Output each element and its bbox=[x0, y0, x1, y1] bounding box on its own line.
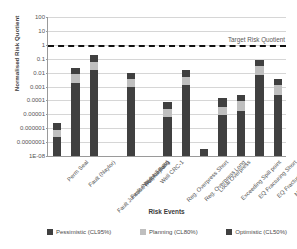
legend-label: Optimistic (CL50%) bbox=[235, 229, 287, 235]
bar-group[interactable] bbox=[200, 149, 208, 156]
bar-segment-optimistic bbox=[237, 111, 245, 156]
bar-segment-pessimistic bbox=[53, 123, 61, 131]
bar-segment-pessimistic bbox=[182, 70, 190, 77]
bar-segment-planning bbox=[218, 107, 226, 116]
bar-segment-pessimistic bbox=[163, 102, 171, 109]
legend-item[interactable]: Planning (CL80%) bbox=[140, 229, 198, 235]
y-tick-label: 0.00001 bbox=[23, 111, 45, 117]
y-tick-label: 0.000001 bbox=[20, 125, 45, 131]
bar-segment-planning bbox=[127, 79, 135, 87]
legend-label: Planning (CL80%) bbox=[149, 229, 198, 235]
target-risk-quotient-label: Target Risk Quotient bbox=[228, 36, 285, 43]
x-axis-tick-labels: Perm SealFault (Naylor)Fault Junction (N… bbox=[47, 157, 286, 209]
bar-segment-planning bbox=[90, 62, 98, 69]
bar-group[interactable] bbox=[163, 102, 171, 156]
bar-segment-optimistic bbox=[53, 137, 61, 156]
bar-segment-planning bbox=[182, 77, 190, 85]
bar-segment-optimistic bbox=[163, 117, 171, 156]
y-tick-label: 0.1 bbox=[37, 56, 45, 62]
bar-segment-pessimistic bbox=[127, 73, 135, 79]
bar-segment-pessimistic bbox=[218, 98, 226, 106]
risk-quotient-chart: Normalised Risk Quotient 1001010.10.010.… bbox=[0, 0, 297, 249]
bar-segment-optimistic bbox=[274, 95, 282, 156]
bar-segment-pessimistic bbox=[71, 68, 79, 73]
bar-segment-planning bbox=[53, 130, 61, 137]
y-tick-label: 1 bbox=[42, 42, 45, 48]
bar-segment-optimistic bbox=[218, 115, 226, 156]
y-tick-label: 10 bbox=[38, 28, 45, 34]
bar-segment-optimistic bbox=[71, 83, 79, 156]
x-tick-label: Fault (Naylor) bbox=[87, 159, 116, 188]
bar-segment-planning bbox=[274, 85, 282, 95]
bar-group[interactable] bbox=[218, 98, 226, 156]
y-tick-label: 1E-08 bbox=[29, 153, 45, 159]
legend-swatch-icon bbox=[140, 229, 146, 235]
chart-legend: Pessimistic (CL95%)Planning (CL80%)Optim… bbox=[47, 229, 287, 235]
bar-segment-optimistic bbox=[255, 75, 263, 156]
y-tick-label: 0.0000001 bbox=[17, 139, 45, 145]
legend-label: Pessimistic (CL95%) bbox=[56, 229, 111, 235]
bar-segment-optimistic bbox=[127, 87, 135, 156]
bar-group[interactable] bbox=[274, 79, 282, 156]
bar-group[interactable] bbox=[127, 73, 135, 156]
bar-group[interactable] bbox=[53, 123, 61, 156]
bar-segment-optimistic bbox=[182, 85, 190, 156]
target-risk-quotient-line bbox=[48, 45, 286, 47]
y-tick-label: 0.001 bbox=[30, 84, 45, 90]
bar-segment-planning bbox=[71, 74, 79, 83]
bar-group[interactable] bbox=[90, 55, 98, 156]
bar-group[interactable] bbox=[71, 68, 79, 156]
x-axis-title: Risk Events bbox=[47, 208, 286, 215]
bar-segment-pessimistic bbox=[237, 95, 245, 101]
y-tick-label: 100 bbox=[35, 14, 45, 20]
x-tick-label: Perm Seal bbox=[66, 159, 89, 182]
legend-swatch-icon bbox=[47, 229, 53, 235]
plot-area: 1001010.10.010.0010.00010.000010.0000010… bbox=[47, 17, 286, 156]
y-tick-label: 0.01 bbox=[33, 70, 45, 76]
legend-item[interactable]: Optimistic (CL50%) bbox=[226, 229, 287, 235]
bar-segment-planning bbox=[237, 101, 245, 111]
bar-segment-planning bbox=[163, 109, 171, 118]
bar-segment-optimistic bbox=[90, 70, 98, 156]
bar-group[interactable] bbox=[255, 60, 263, 156]
bar-segment-planning bbox=[255, 66, 263, 76]
legend-item[interactable]: Pessimistic (CL95%) bbox=[47, 229, 111, 235]
bar-segment-pessimistic bbox=[90, 55, 98, 62]
bar-group[interactable] bbox=[182, 70, 190, 156]
bar-segment-pessimistic bbox=[255, 60, 263, 65]
bar-segment-optimistic bbox=[200, 149, 208, 156]
y-axis-title: Normalised Risk Quotient bbox=[13, 0, 20, 114]
bar-segment-pessimistic bbox=[274, 79, 282, 85]
legend-swatch-icon bbox=[226, 229, 232, 235]
y-tick-label: 0.0001 bbox=[27, 97, 45, 103]
bar-group[interactable] bbox=[237, 95, 245, 156]
